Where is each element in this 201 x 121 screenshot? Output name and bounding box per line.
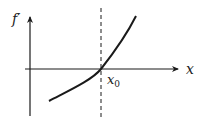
x-axis-label: x — [186, 61, 194, 77]
x0-label: x0 — [107, 72, 120, 89]
y-axis-label: f′ — [11, 11, 21, 27]
f-prime-curve — [49, 16, 136, 101]
diagram-canvas: f′ x x0 — [0, 0, 201, 121]
